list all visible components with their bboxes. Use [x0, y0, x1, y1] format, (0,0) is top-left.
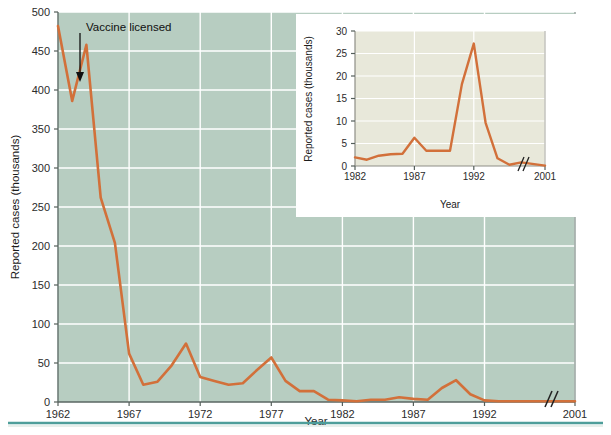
main-y-tick-label: 100: [32, 318, 50, 330]
main-x-tick-label: 2001: [563, 408, 587, 420]
inset-y-tick-label: 30: [336, 26, 348, 37]
main-x-tick-label: 1982: [330, 408, 354, 420]
main-x-tick-label: 1977: [259, 408, 283, 420]
inset-x-tick-label: 1992: [463, 171, 486, 182]
inset-y-tick-label: 0: [341, 161, 347, 172]
main-y-tick-label: 150: [32, 279, 50, 291]
annotation-label: Vaccine licensed: [86, 21, 171, 33]
inset-y-tick-label: 10: [336, 116, 348, 127]
figure-container: 050100150200250300350400450500 196219671…: [0, 0, 611, 435]
inset-x-tick-label: 2001: [534, 171, 557, 182]
main-y-tick-label: 400: [32, 84, 50, 96]
main-x-tick-label: 1967: [117, 408, 141, 420]
main-y-tick-label: 0: [44, 396, 50, 408]
inset-y-tick-label: 25: [336, 48, 348, 59]
main-y-tick-label: 200: [32, 240, 50, 252]
main-x-tick-label: 1992: [472, 408, 496, 420]
inset-y-tick-label: 5: [341, 138, 347, 149]
inset-y-tick-label: 20: [336, 71, 348, 82]
inset-chart: 051015202530 1982198719922001 Reported c…: [296, 14, 576, 217]
chart-svg: 050100150200250300350400450500 196219671…: [0, 0, 611, 435]
main-y-tick-label: 500: [32, 6, 50, 18]
main-x-axis-title: Year: [304, 415, 327, 427]
inset-x-tick-label: 1982: [344, 171, 367, 182]
main-x-tick-label: 1987: [401, 408, 425, 420]
inset-x-axis-title: Year: [440, 199, 461, 210]
main-x-tick-label: 1972: [188, 408, 212, 420]
main-x-tick-label: 1962: [46, 408, 70, 420]
main-y-tick-label: 50: [38, 357, 50, 369]
main-y-axis-title: Reported cases (thousands): [9, 135, 21, 280]
main-y-tick-label: 250: [32, 201, 50, 213]
inset-y-tick-label: 15: [336, 93, 348, 104]
inset-x-tick-label: 1987: [403, 171, 426, 182]
main-y-tick-label: 350: [32, 123, 50, 135]
main-y-tick-label: 300: [32, 162, 50, 174]
inset-y-axis-title: Reported cases (thousands): [303, 36, 314, 162]
main-y-tick-label: 450: [32, 45, 50, 57]
